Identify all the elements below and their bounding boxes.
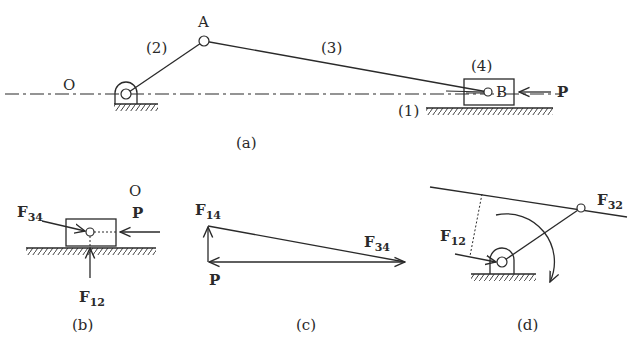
label-link-4: (4) bbox=[471, 57, 492, 75]
pin-o bbox=[121, 89, 131, 99]
label-link-3: (3) bbox=[321, 39, 342, 57]
label-p-c: P bbox=[209, 271, 220, 289]
label-f12-d: F12 bbox=[440, 227, 466, 248]
ground-slider bbox=[426, 108, 553, 115]
caption-d: (d) bbox=[517, 316, 538, 334]
caption-b: (b) bbox=[72, 316, 93, 334]
label-f34-b: F34 bbox=[17, 203, 43, 224]
label-link-2: (2) bbox=[146, 39, 167, 57]
pin-b bbox=[484, 88, 492, 96]
crank-link-d bbox=[502, 208, 581, 262]
label-b: B bbox=[496, 83, 507, 101]
pin-a-d bbox=[577, 204, 585, 212]
slider-crank-force-diagram: O A B (2) (3) (4) (1) P (a) O P F34 F12 … bbox=[0, 0, 640, 357]
label-force-p: P bbox=[557, 83, 568, 101]
link-3 bbox=[204, 41, 488, 92]
ground-support-o bbox=[114, 82, 158, 111]
pin-b-fbd bbox=[86, 228, 94, 236]
pin-a bbox=[199, 36, 209, 46]
label-o-b: O bbox=[129, 182, 141, 200]
label-o: O bbox=[63, 76, 75, 94]
panel-b: O P F34 F12 (b) bbox=[17, 182, 160, 334]
label-f14-c: F14 bbox=[195, 201, 221, 222]
label-a: A bbox=[197, 13, 209, 31]
force-f34-arrow bbox=[42, 221, 85, 231]
label-ground-1: (1) bbox=[398, 102, 419, 120]
label-p-b: P bbox=[132, 204, 143, 222]
label-f34-c: F34 bbox=[364, 233, 390, 254]
caption-c: (c) bbox=[296, 316, 316, 334]
label-f12-b: F12 bbox=[79, 288, 105, 309]
panel-c: F14 F34 P (c) bbox=[195, 201, 405, 334]
pin-o-d bbox=[497, 257, 507, 267]
label-f32-d: F32 bbox=[597, 191, 623, 212]
ground-b bbox=[26, 248, 156, 255]
caption-a: (a) bbox=[236, 134, 257, 152]
moment-arm bbox=[470, 194, 482, 256]
panel-d: F12 F32 (d) bbox=[430, 187, 627, 334]
panel-a: O A B (2) (3) (4) (1) P (a) bbox=[5, 13, 568, 152]
